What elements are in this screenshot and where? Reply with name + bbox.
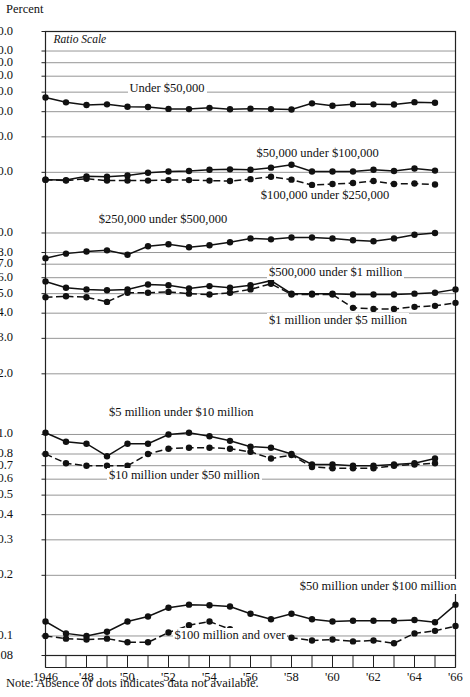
data-point xyxy=(247,176,253,182)
data-point xyxy=(186,601,192,607)
data-point xyxy=(124,618,130,624)
data-point xyxy=(83,462,89,468)
data-point xyxy=(63,177,69,183)
data-point xyxy=(206,433,212,439)
data-point xyxy=(329,618,335,624)
data-point xyxy=(391,462,397,468)
data-point xyxy=(206,291,212,297)
data-point xyxy=(165,629,171,635)
data-point xyxy=(268,174,274,180)
data-point xyxy=(411,232,417,238)
data-point xyxy=(165,605,171,611)
data-point xyxy=(391,168,397,174)
data-point xyxy=(63,285,69,291)
data-point xyxy=(370,637,376,643)
data-point xyxy=(186,290,192,296)
data-point xyxy=(309,616,315,622)
series-line xyxy=(46,433,436,466)
data-point xyxy=(452,623,458,629)
data-point xyxy=(329,465,335,471)
data-point xyxy=(432,290,438,296)
data-point xyxy=(350,237,356,243)
data-point xyxy=(391,291,397,297)
data-point xyxy=(329,181,335,187)
data-point xyxy=(432,460,438,466)
data-point xyxy=(63,250,69,256)
data-point xyxy=(42,94,48,100)
data-point xyxy=(227,239,233,245)
data-point xyxy=(145,613,151,619)
data-point xyxy=(391,306,397,312)
data-point xyxy=(432,181,438,187)
data-point xyxy=(145,441,151,447)
data-point xyxy=(350,180,356,186)
data-point xyxy=(370,167,376,173)
series-label: $10 million under $50 million xyxy=(107,468,262,483)
data-point xyxy=(104,635,110,641)
data-point xyxy=(452,601,458,607)
data-point xyxy=(145,451,151,457)
data-point xyxy=(350,168,356,174)
data-point xyxy=(145,170,151,176)
data-point xyxy=(350,101,356,107)
data-point xyxy=(124,290,130,296)
data-point xyxy=(124,177,130,183)
data-point xyxy=(309,291,315,297)
data-point xyxy=(83,248,89,254)
data-point xyxy=(124,104,130,110)
data-point xyxy=(104,453,110,459)
data-point xyxy=(268,616,274,622)
data-point xyxy=(42,176,48,182)
data-point xyxy=(309,637,315,643)
series-label: $500,000 under $1 million xyxy=(267,265,404,280)
data-point xyxy=(104,247,110,253)
data-point xyxy=(42,633,48,639)
data-point xyxy=(247,105,253,111)
data-point xyxy=(288,635,294,641)
data-point xyxy=(370,306,376,312)
data-point xyxy=(165,168,171,174)
data-point xyxy=(247,235,253,241)
data-point xyxy=(124,252,130,258)
data-point xyxy=(42,294,48,300)
data-point xyxy=(83,286,89,292)
data-point xyxy=(206,242,212,248)
data-point xyxy=(329,291,335,297)
data-point xyxy=(268,444,274,450)
data-point xyxy=(309,100,315,106)
data-point xyxy=(186,444,192,450)
data-point xyxy=(227,603,233,609)
data-point xyxy=(145,639,151,645)
data-point xyxy=(329,636,335,642)
data-point xyxy=(247,610,253,616)
series-label: $100,000 under $250,000 xyxy=(259,188,391,203)
data-point xyxy=(165,282,171,288)
data-point xyxy=(350,291,356,297)
data-point xyxy=(63,99,69,105)
data-point xyxy=(206,602,212,608)
data-point xyxy=(83,175,89,181)
data-point xyxy=(104,629,110,635)
data-point xyxy=(227,290,233,296)
data-point xyxy=(329,235,335,241)
data-point xyxy=(411,165,417,171)
chart-container: Percent 100.080.070.060.050.040.030.020.… xyxy=(0,0,470,697)
data-point xyxy=(391,101,397,107)
data-point xyxy=(206,177,212,183)
data-point xyxy=(186,244,192,250)
data-point xyxy=(145,243,151,249)
data-point xyxy=(186,430,192,436)
data-point xyxy=(206,167,212,173)
data-point xyxy=(227,106,233,112)
data-point xyxy=(370,291,376,297)
data-point xyxy=(432,100,438,106)
data-point xyxy=(165,289,171,295)
data-point xyxy=(309,234,315,240)
data-point xyxy=(247,167,253,173)
data-point xyxy=(145,104,151,110)
data-point xyxy=(268,455,274,461)
data-point xyxy=(288,176,294,182)
data-point xyxy=(42,278,48,284)
data-point xyxy=(370,101,376,107)
data-point xyxy=(247,286,253,292)
